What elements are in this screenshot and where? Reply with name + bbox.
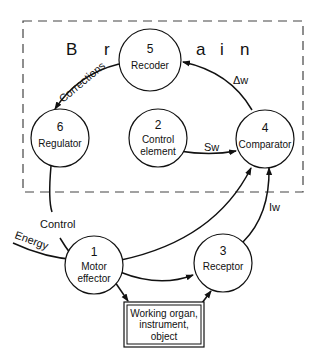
- node-receptor-number: 3: [220, 244, 227, 258]
- edge-label-sw: Sw: [204, 141, 219, 153]
- working-organ-label-line2: instrument,: [139, 319, 188, 330]
- node-recoder: 5 Recoder: [119, 29, 181, 91]
- node-comparator-number: 4: [262, 121, 269, 135]
- working-organ-label-line3: object: [151, 331, 178, 342]
- node-receptor-label: Receptor: [203, 261, 244, 272]
- node-motor-effector: 1 Motor effector: [65, 236, 123, 294]
- brain-letter-n: n: [240, 40, 249, 59]
- node-receptor: 3 Receptor: [194, 234, 252, 292]
- brain-letter-b: B: [66, 40, 77, 59]
- node-regulator: 6 Regulator: [31, 109, 89, 167]
- node-motor-effector-label-line1: Motor: [81, 261, 107, 272]
- node-recoder-label: Recoder: [131, 60, 169, 71]
- node-control-element-label-line1: Control: [142, 134, 174, 145]
- node-comparator-label: Comparator: [239, 139, 292, 150]
- edge-receptor-to-comparator: [243, 168, 269, 242]
- node-regulator-number: 6: [57, 120, 64, 134]
- brain-letter-i: i: [220, 40, 224, 59]
- node-regulator-label: Regulator: [38, 138, 82, 149]
- node-recoder-number: 5: [147, 42, 154, 56]
- edge-label-control: Control: [40, 218, 75, 230]
- node-motor-effector-label-line2: effector: [77, 273, 111, 284]
- edge-label-iw: Iw: [269, 201, 280, 213]
- working-organ-label-line1: Working organ,: [130, 308, 198, 319]
- node-comparator: 4 Comparator: [236, 110, 294, 168]
- node-motor-effector-number: 1: [91, 245, 98, 259]
- edge-motor-effector-to-working-organ: [115, 282, 128, 301]
- node-control-element-number: 2: [155, 118, 162, 132]
- brain-letter-a: a: [196, 40, 206, 59]
- brain-letter-r: r: [104, 40, 110, 59]
- edge-comparator-to-recoder: [183, 62, 252, 110]
- node-control-element: 2 Control element: [129, 109, 187, 167]
- edge-label-corrections: Corrections: [57, 59, 108, 105]
- edge-motor-effector-to-receptor: [120, 272, 193, 281]
- edge-label-delta-w: Δw: [233, 74, 248, 86]
- control-loop-diagram: B r a i n Corrections Δw Sw Control Ener…: [0, 0, 317, 358]
- edge-working-organ-to-receptor: [202, 291, 211, 303]
- edge-label-energy: Energy: [13, 229, 50, 252]
- node-working-organ: Working organ, instrument, object: [124, 302, 204, 347]
- node-control-element-label-line2: element: [140, 146, 176, 157]
